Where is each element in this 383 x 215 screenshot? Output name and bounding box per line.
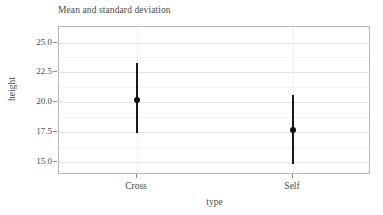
chart-figure: Mean and standard deviation 25.022.520.0… bbox=[0, 0, 383, 215]
y-axis-title: height bbox=[7, 59, 17, 119]
gridline-major bbox=[59, 162, 369, 163]
x-tick-label-cross: Cross bbox=[125, 181, 147, 191]
chart-title: Mean and standard deviation bbox=[58, 5, 171, 15]
y-tick-mark bbox=[53, 71, 57, 72]
plot-panel bbox=[58, 26, 370, 174]
gridline-major bbox=[59, 132, 369, 133]
gridline-major bbox=[59, 43, 369, 44]
gridline-minor bbox=[59, 87, 369, 88]
mean-point-cross bbox=[134, 97, 140, 103]
gridline-minor bbox=[59, 117, 369, 118]
x-tick-mark bbox=[136, 174, 137, 178]
gridline-major bbox=[59, 102, 369, 103]
mean-point-self bbox=[290, 127, 296, 133]
y-tick-mark bbox=[53, 131, 57, 132]
y-tick-mark bbox=[53, 101, 57, 102]
x-tick-mark bbox=[292, 174, 293, 178]
gridline-minor bbox=[59, 57, 369, 58]
x-tick-label-self: Self bbox=[284, 181, 299, 191]
y-tick-mark bbox=[53, 42, 57, 43]
y-tick-mark bbox=[53, 161, 57, 162]
x-axis-title: type bbox=[0, 197, 383, 207]
gridline-minor bbox=[59, 147, 369, 148]
gridline-major bbox=[59, 72, 369, 73]
